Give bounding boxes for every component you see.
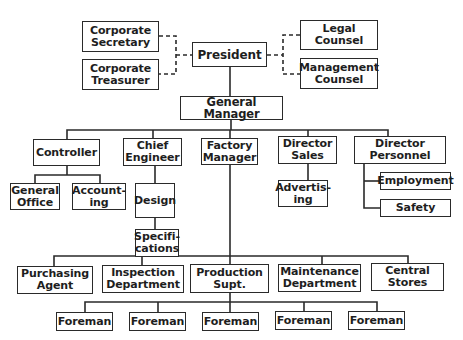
advertising-box: Advertis- ing — [278, 180, 328, 207]
box-label: Advertis- ing — [275, 182, 331, 206]
production-supt-box: Production Supt. — [190, 264, 269, 293]
box-label: Foreman — [131, 316, 185, 328]
box-label: Purchasing Agent — [21, 268, 89, 292]
box-label: Legal Counsel — [315, 23, 363, 47]
management-counsel-box: Management Counsel — [300, 58, 378, 89]
employment-box: Employment — [380, 172, 451, 190]
box-label: General Office — [11, 185, 59, 209]
design-box: Design — [135, 183, 175, 218]
corporate-treasurer-box: Corporate Treasurer — [82, 59, 159, 90]
director-personnel-box: Director Personnel — [354, 136, 446, 164]
inspection-department-box: Inspection Department — [102, 265, 184, 293]
box-label: Production Supt. — [196, 267, 263, 291]
foreman-box: Foreman — [275, 311, 332, 330]
foreman-box: Foreman — [348, 311, 405, 330]
safety-box: Safety — [380, 199, 451, 217]
box-label: Director Personnel — [369, 138, 430, 162]
box-label: Controller — [36, 147, 97, 159]
maintenance-department-box: Maintenance Department — [278, 264, 361, 292]
box-label: Corporate Treasurer — [90, 63, 151, 87]
box-label: Management Counsel — [299, 62, 379, 86]
general-manager-box: General Manager — [180, 96, 283, 120]
corporate-secretary-box: Corporate Secretary — [82, 21, 159, 52]
accounting-box: Account- ing — [72, 183, 126, 210]
box-label: Chief Engineer — [125, 140, 179, 164]
box-label: Account- ing — [72, 185, 126, 209]
purchasing-agent-box: Purchasing Agent — [17, 266, 93, 294]
box-label: Factory Manager — [203, 140, 257, 164]
box-label: Foreman — [58, 316, 112, 328]
box-label: General Manager — [181, 96, 282, 120]
box-label: President — [197, 49, 261, 61]
specifications-box: Specifi- cations — [135, 229, 179, 257]
controller-box: Controller — [33, 139, 100, 166]
box-label: Central Stores — [385, 265, 430, 289]
box-label: Foreman — [350, 315, 404, 327]
box-label: Inspection Department — [106, 267, 180, 291]
foreman-box: Foreman — [129, 312, 186, 331]
box-label: Safety — [396, 202, 435, 214]
org-chart: Corporate Secretary Corporate Treasurer … — [0, 0, 463, 340]
box-label: Corporate Secretary — [90, 25, 151, 49]
central-stores-box: Central Stores — [371, 263, 444, 291]
factory-manager-box: Factory Manager — [201, 138, 258, 165]
box-label: Employment — [377, 175, 453, 187]
box-label: Design — [134, 195, 176, 207]
chief-engineer-box: Chief Engineer — [123, 138, 182, 166]
box-label: Maintenance Department — [280, 266, 359, 290]
box-label: Specifi- cations — [134, 231, 180, 255]
box-label: Director Sales — [283, 138, 333, 162]
director-sales-box: Director Sales — [278, 136, 337, 164]
legal-counsel-box: Legal Counsel — [300, 20, 378, 50]
foreman-box: Foreman — [56, 312, 113, 331]
box-label: Foreman — [277, 315, 331, 327]
box-label: Foreman — [204, 316, 258, 328]
general-office-box: General Office — [10, 183, 60, 210]
foreman-box: Foreman — [202, 312, 259, 331]
president-box: President — [192, 42, 267, 67]
